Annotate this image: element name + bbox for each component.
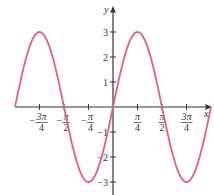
svg-text:−: −	[81, 115, 87, 126]
svg-text:π: π	[135, 111, 141, 122]
chart: −3π4−π2−π4π4π23π4321−1−2−3 x y	[0, 0, 214, 195]
svg-text:−: −	[29, 115, 35, 126]
x-tick-label: π4	[134, 111, 141, 133]
svg-text:4: 4	[88, 122, 93, 133]
svg-text:3π: 3π	[181, 111, 193, 122]
svg-text:−: −	[56, 115, 62, 126]
y-axis-arrow-icon	[110, 6, 116, 13]
x-axis-label: x	[203, 108, 209, 119]
y-tick-label: 1	[103, 77, 108, 88]
svg-text:3π: 3π	[35, 111, 47, 122]
x-tick-label: −π4	[81, 111, 94, 133]
y-axis-label: y	[103, 4, 109, 15]
svg-text:2: 2	[160, 122, 165, 133]
y-tick-label: −3	[97, 177, 108, 188]
x-tick-label: 3π4	[181, 111, 193, 133]
svg-text:π: π	[88, 111, 94, 122]
svg-text:4: 4	[39, 122, 44, 133]
svg-text:4: 4	[135, 122, 140, 133]
y-tick-label: 3	[103, 27, 108, 38]
y-tick-label: 2	[103, 52, 108, 63]
svg-text:4: 4	[184, 122, 189, 133]
x-tick-label: −3π4	[29, 111, 47, 133]
